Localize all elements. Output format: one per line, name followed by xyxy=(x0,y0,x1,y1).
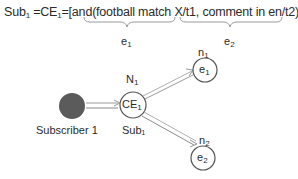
e2-node-text: e2 xyxy=(197,151,208,165)
ce1-index: 1 xyxy=(137,103,141,112)
ce1-top-text: N xyxy=(126,73,134,85)
brace-label-e1-index: 1 xyxy=(127,40,131,49)
e1-node-text: e1 xyxy=(199,63,210,77)
diagram-graphics xyxy=(0,0,298,179)
brace-e2 xyxy=(180,17,282,27)
e2-index: 2 xyxy=(203,156,207,165)
e2-top-index: 2 xyxy=(205,139,209,148)
e1-top-label: n1 xyxy=(198,46,209,60)
e2-top-label: n2 xyxy=(199,134,210,148)
brace-label-e2: e2 xyxy=(224,35,235,49)
subscriber-label: Subscriber 1 xyxy=(36,124,98,136)
brace-label-e2-index: 2 xyxy=(230,40,234,49)
ce1-top-index: 1 xyxy=(134,78,138,87)
ce1-text: CE xyxy=(122,98,137,110)
e1-top-index: 1 xyxy=(204,51,208,60)
e1-index: 1 xyxy=(205,68,209,77)
ce1-node-text: CE1 xyxy=(122,98,142,112)
ce1-bottom-label: Sub₁ xyxy=(122,124,145,136)
ce1-top-label: N1 xyxy=(126,73,138,87)
brace-label-e1: e1 xyxy=(121,35,132,49)
brace-e1 xyxy=(84,17,175,27)
subscriber-node xyxy=(59,93,85,119)
